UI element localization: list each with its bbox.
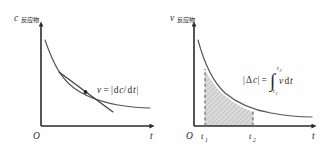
tick-t2-sub: 2 — [253, 137, 256, 143]
chart-panel-concentration-vs-time: c 反应物 t O v = | d c / d t | — [0, 0, 167, 151]
annotation-equals: = — [104, 85, 109, 95]
y-axis-variable-right: v — [170, 13, 175, 23]
tangency-point-dot — [84, 90, 88, 94]
annotation-d2: d — [128, 85, 133, 95]
integrand-v: v — [279, 76, 284, 86]
tick-t1-sub: 1 — [205, 137, 208, 143]
annotation-slash: / — [124, 85, 127, 95]
annotation-bar-open: | — [111, 85, 113, 95]
annotation-bar-close: | — [137, 85, 139, 95]
chart-panel-rate-vs-time: v 反应物 t O t 1 t 2 | Δ c | = ∫ t 2 t 1 — [167, 0, 334, 151]
annotation-v: v — [97, 85, 102, 95]
integral-lower-sub: 1 — [276, 91, 278, 96]
integrand-d: d — [285, 76, 290, 86]
y-axis-subscript: 反应物 — [21, 16, 39, 24]
annotation-bar-open-right: | — [243, 75, 245, 85]
tick-t1-base: t — [201, 131, 204, 141]
tick-t2-base: t — [249, 131, 252, 141]
origin-label-left: O — [33, 131, 40, 141]
x-axis-variable-left: t — [150, 131, 153, 141]
annotation-bar-close-right: | — [257, 75, 259, 85]
annotation-d1: d — [114, 85, 119, 95]
annotation-delta: Δ — [246, 75, 252, 85]
annotation-equals-right: = — [262, 75, 267, 85]
annotation-integral-expression: | Δ c | = ∫ t 2 t 1 v d t — [243, 65, 293, 96]
y-axis-variable: c — [14, 13, 19, 23]
tick-label-t2: t 2 — [249, 131, 256, 143]
y-axis-subscript-right: 反应物 — [177, 16, 195, 24]
y-axis-label-left: c 反应物 — [14, 13, 39, 24]
figure-root: c 反应物 t O v = | d c / d t | — [0, 0, 334, 151]
tick-label-t1: t 1 — [201, 131, 208, 143]
annotation-rate-definition: v = | d c / d t | — [97, 85, 139, 95]
y-axis-label-right: v 反应物 — [170, 13, 195, 24]
integral-upper-sub: 2 — [280, 68, 282, 73]
origin-label-right: O — [186, 131, 193, 141]
integrand-t: t — [290, 76, 293, 86]
x-axis-variable-right: t — [312, 131, 315, 141]
